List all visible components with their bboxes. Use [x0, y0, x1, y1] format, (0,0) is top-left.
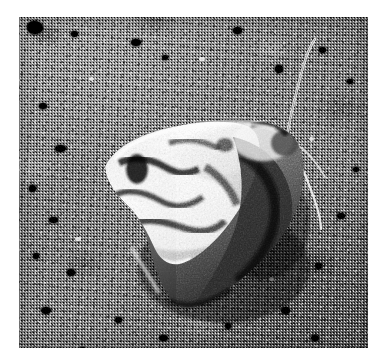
image-canvas: [0, 0, 384, 362]
antenna-upper-icon: [287, 39, 315, 135]
photograph-plate: [19, 17, 368, 348]
moth-subject: [19, 17, 368, 348]
